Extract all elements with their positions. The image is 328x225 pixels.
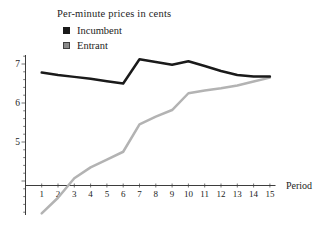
x-tick-label: 3: [72, 189, 77, 199]
legend-label-incumbent: Incumbent: [77, 25, 122, 36]
chart-title: Per-minute prices in cents: [57, 8, 171, 19]
legend-label-entrant: Entrant: [77, 40, 108, 51]
x-tick-label: 6: [121, 189, 126, 199]
chart-figure: 567123456789101112131415Period Per-minut…: [0, 0, 328, 225]
x-tick-label: 15: [265, 189, 275, 199]
chart-legend: Incumbent Entrant: [63, 23, 122, 53]
x-tick-label: 4: [88, 189, 93, 199]
y-tick-label: 6: [15, 98, 20, 108]
chart-canvas: 567123456789101112131415Period: [0, 0, 328, 225]
x-tick-label: 11: [200, 189, 209, 199]
incumbent-line: [42, 59, 270, 83]
x-tick-label: 1: [39, 189, 44, 199]
x-axis-title: Period: [286, 180, 312, 191]
x-tick-label: 8: [154, 189, 159, 199]
x-tick-label: 14: [249, 189, 259, 199]
x-tick-label: 5: [105, 189, 110, 199]
x-tick-label: 10: [184, 189, 194, 199]
x-tick-label: 13: [233, 189, 243, 199]
legend-item-incumbent: Incumbent: [63, 23, 122, 38]
legend-item-entrant: Entrant: [63, 38, 122, 53]
x-tick-label: 7: [137, 189, 142, 199]
y-tick-label: 5: [15, 137, 20, 147]
y-tick-label: 7: [15, 59, 20, 69]
x-tick-label: 12: [217, 189, 226, 199]
entrant-swatch-icon: [63, 42, 70, 49]
incumbent-swatch-icon: [63, 27, 70, 34]
x-tick-label: 9: [170, 189, 175, 199]
